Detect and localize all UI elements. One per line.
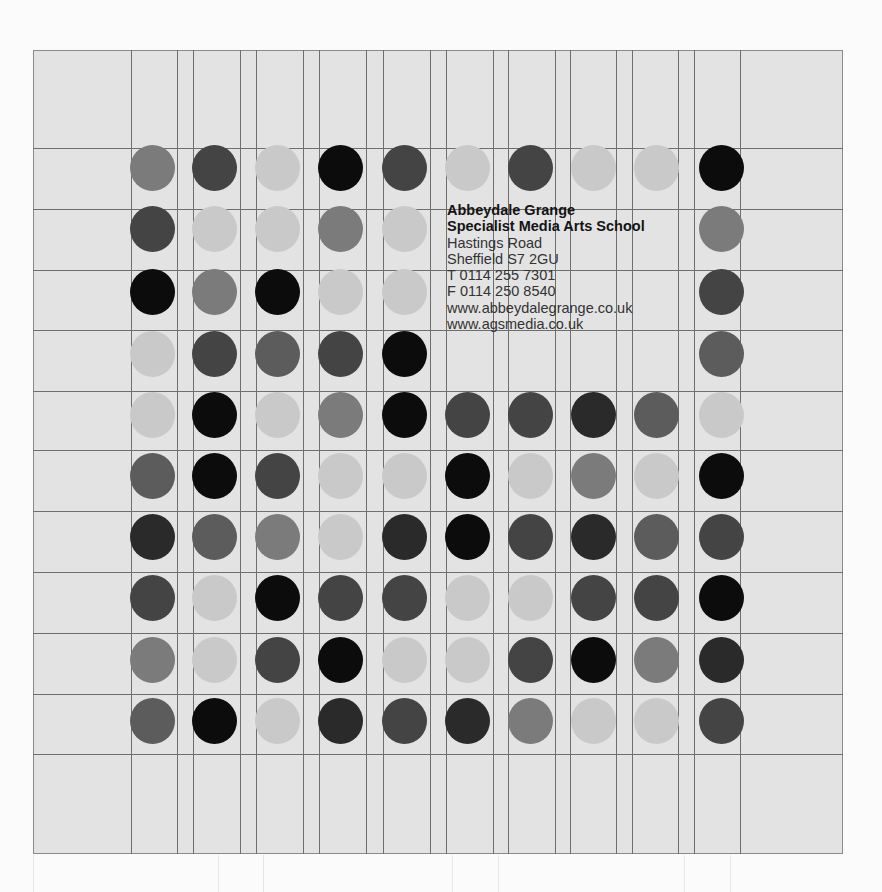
gray-dot (192, 637, 237, 683)
gray-dot (130, 269, 175, 315)
gray-dot (255, 331, 300, 377)
gray-dot (382, 392, 427, 438)
grid-horizontal-line (33, 511, 843, 512)
grid-vertical-line (240, 50, 241, 854)
gray-dot (318, 392, 363, 438)
gray-dot (382, 514, 427, 560)
gray-dot (192, 514, 237, 560)
gray-dot (192, 145, 237, 191)
gray-dot (382, 453, 427, 499)
faint-guide-line (684, 855, 685, 892)
gray-dot (571, 392, 616, 438)
gray-dot (634, 637, 679, 683)
gray-dot (382, 331, 427, 377)
grid-vertical-line (555, 50, 556, 854)
gray-dot (318, 453, 363, 499)
gray-dot (699, 269, 744, 315)
gray-dot (130, 575, 175, 621)
gray-dot (255, 145, 300, 191)
gray-dot (192, 269, 237, 315)
gray-dot (445, 575, 490, 621)
website-link[interactable]: www.abbeydalegrange.co.uk (447, 300, 645, 316)
gray-dot (255, 392, 300, 438)
grid-vertical-line (177, 50, 178, 854)
gray-dot (318, 637, 363, 683)
faint-guide-line (263, 855, 264, 892)
gray-dot (445, 392, 490, 438)
gray-dot (634, 453, 679, 499)
gray-dot (699, 575, 744, 621)
city-postcode: Sheffield S7 2GU (447, 251, 645, 267)
gray-dot (192, 206, 237, 252)
gray-dot (508, 575, 553, 621)
media-website-link[interactable]: www.agsmedia.co.uk (447, 316, 645, 332)
gray-dot (382, 269, 427, 315)
gray-dot (255, 206, 300, 252)
gray-dot (255, 575, 300, 621)
gray-dot (571, 575, 616, 621)
gray-dot (699, 698, 744, 744)
gray-dot (192, 392, 237, 438)
gray-dot (192, 331, 237, 377)
gray-dot (445, 698, 490, 744)
gray-dot (571, 453, 616, 499)
gray-dot (382, 698, 427, 744)
gray-dot (130, 453, 175, 499)
gray-dot (192, 575, 237, 621)
grid-vertical-line (430, 50, 431, 854)
gray-dot (699, 331, 744, 377)
gray-dot (634, 514, 679, 560)
gray-dot (699, 637, 744, 683)
gray-dot (318, 698, 363, 744)
grid-vertical-line (366, 50, 367, 854)
grid-horizontal-line (33, 694, 843, 695)
grid-horizontal-line (33, 633, 843, 634)
gray-dot (508, 698, 553, 744)
gray-dot (634, 575, 679, 621)
gray-dot (571, 698, 616, 744)
gray-dot (508, 392, 553, 438)
gray-dot (130, 206, 175, 252)
gray-dot (571, 514, 616, 560)
grid-vertical-line (694, 50, 695, 854)
gray-dot (382, 145, 427, 191)
gray-dot (318, 331, 363, 377)
gray-dot (508, 145, 553, 191)
gray-dot (634, 392, 679, 438)
gray-dot (130, 145, 175, 191)
gray-dot (508, 514, 553, 560)
gray-dot (445, 637, 490, 683)
grid-vertical-line (303, 50, 304, 854)
gray-dot (255, 269, 300, 315)
gray-dot (318, 514, 363, 560)
gray-dot (445, 514, 490, 560)
gray-dot (699, 392, 744, 438)
gray-dot (382, 637, 427, 683)
faint-guide-line (730, 855, 731, 892)
gray-dot (130, 637, 175, 683)
gray-dot (318, 575, 363, 621)
gray-dot (130, 392, 175, 438)
street-address: Hastings Road (447, 235, 645, 251)
gray-dot (255, 637, 300, 683)
grid-vertical-line (632, 50, 633, 854)
gray-dot (255, 698, 300, 744)
gray-dot (699, 145, 744, 191)
gray-dot (445, 145, 490, 191)
gray-dot (634, 145, 679, 191)
gray-dot (382, 575, 427, 621)
gray-dot (255, 453, 300, 499)
gray-dot (699, 514, 744, 560)
gray-dot (130, 514, 175, 560)
gray-dot (318, 269, 363, 315)
gray-dot (192, 698, 237, 744)
gray-dot (699, 206, 744, 252)
faint-guide-line (498, 855, 499, 892)
gray-dot (130, 698, 175, 744)
telephone: T 0114 255 7301 (447, 267, 645, 283)
gray-dot (508, 453, 553, 499)
gray-dot (192, 453, 237, 499)
faint-guide-line (33, 855, 34, 892)
gray-dot (318, 206, 363, 252)
school-address-block: Abbeydale Grange Specialist Media Arts S… (447, 202, 645, 332)
